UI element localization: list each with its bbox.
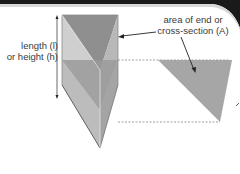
length-label-line1: length (l): [2, 40, 58, 51]
area-label-line1: area of end or: [150, 14, 236, 25]
length-label-line2: or height (h): [2, 51, 58, 62]
edge-arrow-fragment: [236, 103, 239, 106]
area-label: area of end or cross-section (A): [150, 14, 236, 36]
diagram-frame: length (l) or height (h) area of end or …: [0, 0, 240, 174]
length-label: length (l) or height (h): [2, 40, 58, 62]
area-label-line2: cross-section (A): [150, 25, 236, 36]
